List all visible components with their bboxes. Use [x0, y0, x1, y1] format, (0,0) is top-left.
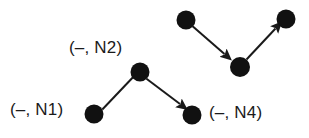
node-n4[interactable]	[183, 106, 202, 125]
label-n2: (–, N2)	[69, 38, 122, 58]
label-n1: (–, N1)	[10, 100, 63, 120]
edge-n1-n2	[102, 77, 133, 110]
node-r2[interactable]	[230, 57, 250, 77]
node-n2[interactable]	[131, 63, 150, 82]
label-n4: (–, N4)	[209, 103, 262, 123]
node-r1[interactable]	[177, 11, 196, 30]
right-cluster	[177, 10, 296, 78]
edge-r1-r2-arrow	[193, 26, 225, 54]
edge-r2-r3-arrow	[247, 29, 276, 60]
edge-n2-n4-arrow	[147, 79, 181, 104]
node-n1[interactable]	[85, 105, 104, 124]
left-cluster	[85, 63, 202, 125]
node-r3[interactable]	[277, 10, 296, 29]
diagram-canvas: (–, N2) (–, N1) (–, N4)	[0, 0, 309, 138]
